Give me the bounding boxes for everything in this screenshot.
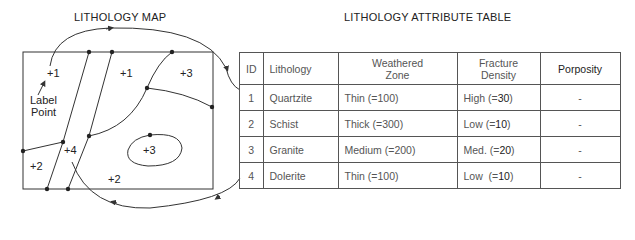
cell-porosity: - <box>540 137 620 163</box>
table-header-row: ID Lithology Weathered Zone Fracture Den… <box>240 53 621 85</box>
link-arrows <box>38 28 240 208</box>
polygon-label: +3 <box>180 67 193 79</box>
fd-value: 10 <box>495 118 507 130</box>
polygon-label: +2 <box>108 173 121 185</box>
header-fracture-density: Fracture Density <box>457 53 540 85</box>
header-weathered-zone-line1: Weathered <box>372 57 423 69</box>
polygon-label: +4 <box>64 144 77 156</box>
fd-value: 10 <box>498 170 510 182</box>
cell-id: 1 <box>240 85 264 111</box>
cell-weathered-zone: Thin (=100) <box>338 85 457 111</box>
lithology-attribute-table: ID Lithology Weathered Zone Fracture Den… <box>239 52 621 189</box>
polygon-label: +1 <box>47 67 60 79</box>
cell-weathered-zone: Medium (=200) <box>338 137 457 163</box>
cell-porosity: - <box>540 85 620 111</box>
cell-fracture-density: High (=30) <box>457 85 540 111</box>
cell-porosity: - <box>540 163 620 189</box>
table-row: 3 Granite Medium (=200) Med. (=20) - <box>240 137 621 163</box>
fd-suffix: ) <box>510 170 514 182</box>
fd-prefix: Low (= <box>464 118 496 130</box>
cell-id: 2 <box>240 111 264 137</box>
label-point-text: Point <box>31 106 56 118</box>
fd-prefix: High (= <box>464 92 498 104</box>
table-row: 4 Dolerite Thin (=100) Low (=10) - <box>240 163 621 189</box>
polygon-label: +1 <box>120 67 133 79</box>
fd-value: 30 <box>498 92 510 104</box>
cell-fracture-density: Low (=10) <box>457 163 540 189</box>
fd-prefix: Med. (= <box>464 144 500 156</box>
cell-lithology: Schist <box>263 111 338 137</box>
cell-id: 4 <box>240 163 264 189</box>
label-point-text: Label <box>30 94 57 106</box>
fd-suffix: ) <box>509 92 513 104</box>
header-weathered-zone-line2: Zone <box>386 69 410 81</box>
polygon-label: +3 <box>143 144 156 156</box>
fd-prefix: Low (= <box>464 170 499 182</box>
cell-weathered-zone: Thin (=100) <box>338 163 457 189</box>
cell-lithology: Quartzite <box>263 85 338 111</box>
cell-porosity: - <box>540 111 620 137</box>
header-fracture-density-line1: Fracture <box>479 57 518 69</box>
cell-weathered-zone: Thick (=300) <box>338 111 457 137</box>
cell-id: 3 <box>240 137 264 163</box>
table-row: 1 Quartzite Thin (=100) High (=30) - <box>240 85 621 111</box>
cell-lithology: Granite <box>263 137 338 163</box>
fd-suffix: ) <box>511 144 515 156</box>
header-fracture-density-line2: Density <box>481 69 516 81</box>
fd-suffix: ) <box>507 118 511 130</box>
header-porosity: Porposity <box>540 53 620 85</box>
header-weathered-zone: Weathered Zone <box>338 53 457 85</box>
fd-value: 20 <box>499 144 511 156</box>
cell-fracture-density: Med. (=20) <box>457 137 540 163</box>
table-row: 2 Schist Thick (=300) Low (=10) - <box>240 111 621 137</box>
cell-fracture-density: Low (=10) <box>457 111 540 137</box>
cell-lithology: Dolerite <box>263 163 338 189</box>
polygon-label: +2 <box>30 160 43 172</box>
header-lithology: Lithology <box>263 53 338 85</box>
header-id: ID <box>240 53 264 85</box>
